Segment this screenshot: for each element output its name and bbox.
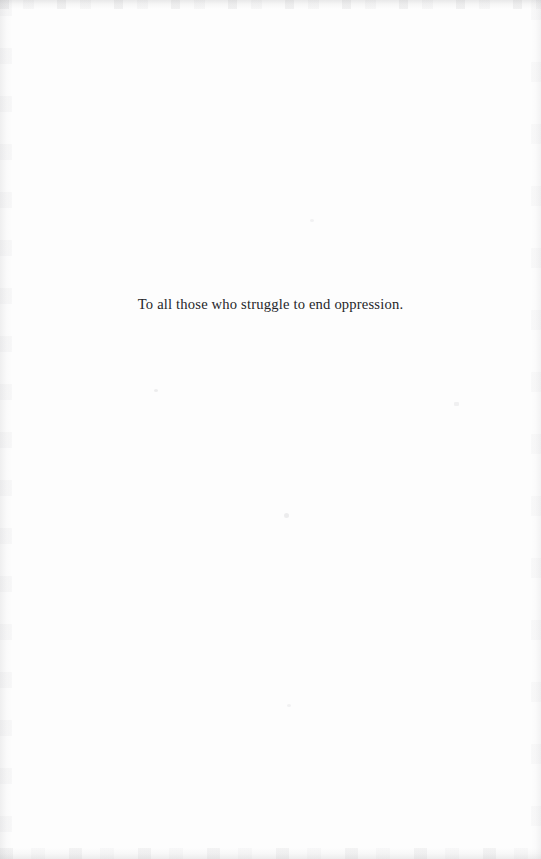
scan-speck: [310, 219, 314, 222]
scan-artifact-top-edge: [0, 0, 541, 9]
scan-artifact-bottom-edge: [0, 848, 541, 859]
scan-speck: [154, 389, 158, 392]
dedication-page: To all those who struggle to end oppress…: [0, 0, 541, 859]
scan-speck: [287, 704, 291, 707]
scan-artifact-right-edge: [531, 0, 541, 859]
scan-speck: [284, 513, 289, 518]
dedication-text: To all those who struggle to end oppress…: [0, 294, 541, 314]
scan-speck: [454, 402, 459, 406]
scan-artifact-left-edge: [0, 0, 12, 859]
